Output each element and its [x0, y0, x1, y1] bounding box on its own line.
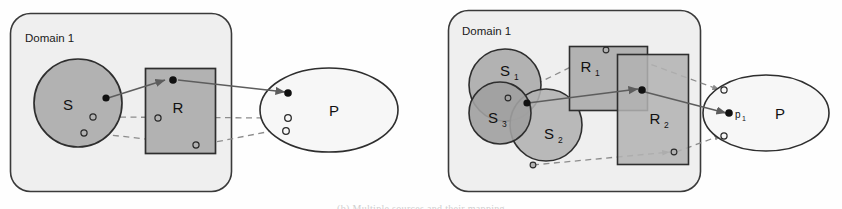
point-hollow-b-P-1 [721, 87, 727, 93]
point-hollow-a-P-2 [283, 128, 290, 135]
target-set-P-b [703, 75, 829, 151]
point-hollow-b-R2 [671, 149, 677, 155]
source-set-S [34, 59, 122, 147]
point-hollow-a-S-1 [90, 114, 96, 120]
figure-root: Domain 1 S R P [0, 0, 842, 209]
relation-set-R1-subscript: 1 [595, 68, 600, 78]
target-set-P-a-label: P [329, 102, 339, 119]
point-hollow-b-R1 [603, 47, 609, 53]
source-set-S2-subscript: 2 [558, 135, 563, 145]
point-hollow-b-S2 [530, 162, 536, 168]
target-set-P-b-label: P [775, 105, 785, 122]
relation-set-R-label: R [173, 99, 184, 116]
relation-set-R2-subscript: 2 [664, 120, 669, 130]
source-set-S3-label: S [488, 109, 498, 126]
source-set-S3 [469, 82, 531, 144]
domain-label-b: Domain 1 [462, 25, 511, 37]
point-filled-b-S [523, 99, 530, 106]
figure-caption-partial: (b) Multiple sources and their mapping [0, 202, 842, 209]
panel-a: Domain 1 S R P [11, 14, 399, 192]
point-filled-a-S [102, 94, 109, 101]
point-hollow-a-P-1 [285, 115, 292, 122]
source-set-S2-label: S [544, 125, 554, 142]
relation-set-R2-label: R [650, 110, 661, 127]
domain-label-a: Domain 1 [25, 32, 74, 44]
source-set-S-label: S [63, 96, 73, 113]
point-hollow-a-R-1 [155, 115, 161, 121]
point-filled-b-R [638, 86, 646, 94]
point-hollow-b-P-2 [721, 133, 727, 139]
point-filled-b-P [725, 109, 733, 117]
point-hollow-a-S-2 [81, 130, 87, 136]
panel-b: Domain 1 S 1 S 3 S 2 R 1 R [449, 11, 830, 192]
point-filled-a-R [169, 76, 177, 84]
point-hollow-b-S3 [505, 95, 511, 101]
source-set-S3-subscript: 3 [502, 119, 507, 129]
point-filled-a-P [284, 89, 292, 97]
diagram-canvas: Domain 1 S R P [0, 0, 842, 209]
relation-set-R1-label: R [581, 58, 592, 75]
source-set-S1-subscript: 1 [514, 72, 519, 82]
point-hollow-a-R-2 [193, 142, 199, 148]
point-label-p1-subscript: 1 [742, 115, 746, 122]
point-label-p1: p [735, 109, 741, 120]
source-set-S1-label: S [500, 62, 510, 79]
